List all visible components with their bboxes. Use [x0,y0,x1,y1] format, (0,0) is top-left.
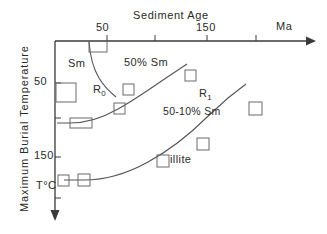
y-tick-label-150: 150 [34,150,54,161]
y-axis-unit: T°C [36,180,57,191]
annotation-50-10-percent-sm: 50-10% Sm [163,106,221,117]
data-marker [157,155,169,167]
annotation-r1: R1 [199,88,212,102]
x-axis-arrow-icon [306,37,316,46]
figure-container: Sediment Age Ma 50 150 Maximum Burial Te… [0,0,327,234]
x-tick-label-50: 50 [96,22,109,33]
annotation-smectite: Sm [68,58,85,69]
data-marker [197,138,209,150]
annotation-r1-subscript: 1 [207,93,211,102]
x-axis [55,35,316,46]
x-tick-label-150: 150 [196,22,216,33]
data-marker [249,102,262,115]
data-marker [56,83,76,102]
data-marker [123,84,134,95]
series-50-percent-sm [57,64,196,128]
data-marker [89,41,107,52]
series-sm-r0-boundary [56,41,116,102]
y-axis-title: Maximum Burial Temperature [18,45,30,212]
y-axis-arrow-icon [51,210,60,221]
series-illite [58,84,262,186]
annotation-r0-subscript: 0 [101,89,105,98]
curve-illite [64,84,246,180]
annotation-50-percent-sm: 50% Sm [124,57,168,68]
y-axis [51,41,62,221]
annotation-illite: illite [170,154,191,165]
data-marker [185,70,196,81]
x-axis-title: Sediment Age [133,10,209,21]
diagram-canvas [0,0,327,234]
annotation-r0: R0 [93,84,106,98]
x-axis-unit: Ma [276,21,292,32]
y-tick-label-50: 50 [34,76,47,87]
